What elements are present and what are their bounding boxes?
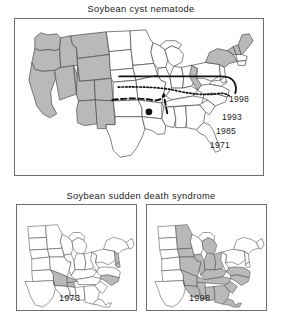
year-callout-1993: 1993 xyxy=(222,112,242,122)
state-kansas xyxy=(32,257,51,271)
state-texas xyxy=(25,281,55,307)
inset-year-label-1998: 1998 xyxy=(189,293,210,303)
state-arizona xyxy=(77,100,98,126)
state-indiana xyxy=(170,66,184,88)
panel-title-soybean-sudden-death-syndrome: Soybean sudden death syndrome xyxy=(0,191,282,201)
state-texas xyxy=(155,281,185,307)
state-north-dakota xyxy=(158,226,177,239)
state-iowa xyxy=(47,248,64,257)
state-south-dakota xyxy=(29,237,48,250)
state-michigan xyxy=(165,46,184,67)
state-south-dakota xyxy=(109,50,133,71)
state-iowa xyxy=(177,248,194,257)
state-nebraska xyxy=(110,68,136,82)
figure-root: Soybean cyst nematode xyxy=(0,0,282,329)
state-minnesota xyxy=(176,225,193,250)
origin-dot-1971 xyxy=(146,108,153,115)
state-oklahoma xyxy=(162,270,184,282)
state-north-dakota xyxy=(106,31,131,52)
state-alabama xyxy=(174,106,187,128)
map-soybean-cyst-nematode xyxy=(14,18,264,176)
map-svg-soybean-cyst-nematode xyxy=(15,19,263,175)
year-callout-1985: 1985 xyxy=(216,126,236,136)
state-connecticut-rhode-island xyxy=(237,60,246,65)
year-callout-1971: 1971 xyxy=(210,140,230,150)
state-oklahoma xyxy=(113,100,142,117)
state-nevada xyxy=(55,65,77,100)
state-colorado xyxy=(94,78,113,101)
panel-title-soybean-cyst-nematode: Soybean cyst nematode xyxy=(0,4,282,14)
state-south-dakota xyxy=(159,237,178,250)
year-callout-1998: 1998 xyxy=(229,94,249,104)
state-minnesota xyxy=(130,30,154,66)
state-washington xyxy=(35,33,61,51)
state-maine xyxy=(238,34,253,55)
shaded-western-states xyxy=(29,32,115,129)
state-oregon xyxy=(32,49,61,72)
state-kansas xyxy=(162,257,181,271)
inset-year-label-1973: 1973 xyxy=(59,293,80,303)
state-oklahoma xyxy=(32,270,54,282)
state-north-dakota xyxy=(28,226,47,239)
state-wyoming xyxy=(77,55,111,82)
state-minnesota xyxy=(46,225,63,250)
